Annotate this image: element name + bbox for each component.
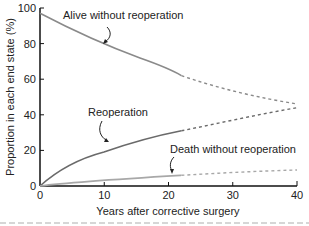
annotation-reoperation: Reoperation bbox=[88, 106, 148, 118]
annotation-alive: Alive without reoperation bbox=[63, 9, 183, 21]
y-tick-100: 100 bbox=[18, 2, 36, 14]
arrowhead-icon bbox=[170, 169, 174, 174]
series-alive-observed bbox=[40, 13, 181, 75]
y-tick-0: 0 bbox=[30, 180, 36, 192]
series-reoperation-projected bbox=[181, 108, 297, 131]
y-tick-60: 60 bbox=[24, 73, 36, 85]
annotation-reoperation-arrow bbox=[100, 121, 106, 140]
series-death-projected bbox=[181, 170, 297, 175]
y-axis-label: Proportion in each end state (%) bbox=[4, 18, 16, 176]
x-axis-label: Years after corrective surgery bbox=[96, 205, 240, 217]
x-tick-40: 40 bbox=[291, 189, 303, 201]
x-tick-0: 0 bbox=[37, 189, 43, 201]
annotation-death: Death without reoperation bbox=[170, 143, 296, 155]
y-tick-80: 80 bbox=[24, 38, 36, 50]
series-reoperation-observed bbox=[40, 131, 181, 186]
x-tick-20: 20 bbox=[162, 189, 174, 201]
x-tick-30: 30 bbox=[227, 189, 239, 201]
x-ticks: 0 10 20 30 40 bbox=[37, 181, 303, 201]
annotation-death-arrow bbox=[170, 157, 174, 171]
series-death-observed bbox=[40, 175, 181, 186]
y-tick-20: 20 bbox=[24, 144, 36, 156]
annotation-alive-arrow bbox=[105, 27, 110, 42]
y-tick-40: 40 bbox=[24, 109, 36, 121]
cropped-caption bbox=[0, 219, 309, 226]
series-alive-projected bbox=[181, 76, 297, 104]
chart-canvas: 100 80 60 40 20 0 0 10 20 30 40 Years af… bbox=[0, 0, 309, 226]
x-tick-10: 10 bbox=[98, 189, 110, 201]
